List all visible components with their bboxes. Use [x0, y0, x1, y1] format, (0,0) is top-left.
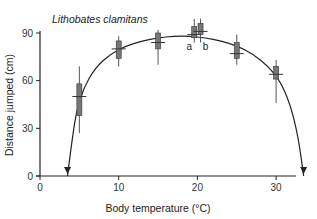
plot-area: 03060900102030ab: [22, 19, 307, 193]
box: [234, 43, 239, 59]
y-axis-label: Distance jumped (cm): [3, 54, 15, 156]
x-tick-label: 10: [113, 182, 125, 193]
fit-curve: [68, 36, 304, 176]
annotation-a: a: [186, 41, 192, 52]
chart-title: Lithobates clamitans: [52, 13, 148, 25]
y-tick-label: 60: [22, 75, 34, 86]
chart: 03060900102030ab Lithobates clamitans Di…: [0, 0, 317, 219]
x-tick-label: 30: [271, 182, 283, 193]
x-tick-label: 0: [37, 182, 43, 193]
arrowhead-icon: [64, 167, 71, 174]
box: [274, 66, 279, 79]
x-tick-label: 20: [192, 182, 204, 193]
box: [116, 41, 121, 58]
x-axis-label: Body temperature (°C): [105, 202, 210, 214]
box: [77, 84, 82, 116]
annotation-b: b: [203, 41, 209, 52]
box: [192, 27, 197, 38]
y-tick-label: 0: [27, 171, 33, 182]
y-tick-label: 90: [22, 28, 34, 39]
y-tick-label: 30: [22, 123, 34, 134]
box: [198, 23, 203, 34]
arrowhead-icon: [300, 167, 307, 174]
box: [156, 33, 161, 49]
